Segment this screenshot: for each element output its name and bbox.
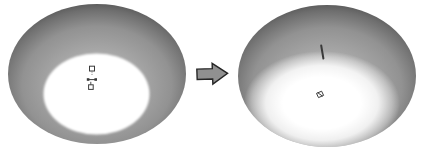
gizmo-handle-end-right [94,78,97,81]
gizmo-handle-end-left [87,78,90,81]
right-lampshade [238,5,416,150]
left-shade-lit-interior [44,54,150,135]
right-block-arrow-icon [197,63,228,85]
figure-canvas [0,0,422,150]
lampshade-comparison-figure [0,0,422,150]
left-lampshade [8,4,186,144]
